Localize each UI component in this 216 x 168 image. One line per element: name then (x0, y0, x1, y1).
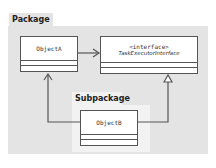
class-name-text: ObjectA (36, 45, 61, 52)
stereotype-text: <interface> (129, 43, 169, 50)
class-objecta[interactable]: ObjectA (20, 36, 78, 72)
methods-section (101, 68, 197, 73)
methods-section (21, 66, 77, 71)
class-name: ObjectB (81, 111, 137, 135)
class-name: <interface> TaskExecutorInterface (101, 37, 197, 63)
methods-section (81, 140, 137, 145)
class-name-text: ObjectB (96, 119, 121, 126)
class-name: ObjectA (21, 37, 77, 61)
realization-triangle-icon (164, 75, 172, 82)
class-name-text: TaskExecutorInterface (118, 50, 179, 56)
class-taskexecutorinterface[interactable]: <interface> TaskExecutorInterface (100, 36, 198, 74)
class-objectb[interactable]: ObjectB (80, 110, 138, 146)
